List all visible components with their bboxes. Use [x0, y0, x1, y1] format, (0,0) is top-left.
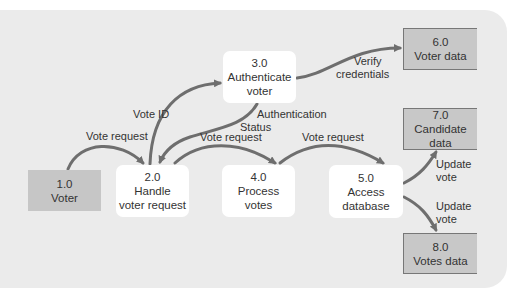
node-id: 2.0 — [145, 170, 161, 184]
node-id: 6.0 — [433, 35, 449, 49]
node-label: Process — [238, 184, 280, 198]
node-candidate-data[interactable]: 7.0 Candidate data — [403, 108, 477, 150]
flow-handle-to-auth — [150, 83, 220, 164]
node-id: 8.0 — [433, 240, 449, 254]
node-label: Voter data — [414, 49, 466, 63]
flow-label-update-1: Update — [436, 158, 471, 171]
flow-access-to-votesdata — [404, 197, 436, 230]
node-id: 1.0 — [57, 177, 73, 191]
node-process-votes[interactable]: 4.0 Process votes — [222, 165, 295, 217]
node-id: 4.0 — [251, 170, 267, 184]
flow-label-vote-1: vote — [436, 171, 457, 184]
node-label: Voter — [51, 191, 78, 205]
flow-label-vote-request-3: Vote request — [302, 131, 364, 144]
node-label: voter — [247, 84, 273, 98]
node-label: votes — [245, 198, 273, 212]
flow-access-to-candidatedata — [404, 152, 436, 183]
flow-label-vote-request-1: Vote request — [86, 130, 148, 143]
flow-label-authentication: Authentication — [257, 108, 327, 121]
flow-label-verify: Verify — [354, 55, 382, 68]
flow-process-to-access — [280, 146, 383, 163]
node-voter[interactable]: 1.0 Voter — [28, 170, 101, 211]
node-access-database[interactable]: 5.0 Access database — [329, 165, 403, 218]
node-label: Votes data — [413, 254, 467, 268]
node-id: 3.0 — [252, 56, 268, 70]
flow-label-vote-request-2: Vote request — [200, 131, 262, 144]
node-votes-data[interactable]: 8.0 Votes data — [403, 233, 477, 274]
flow-handle-to-process — [175, 146, 275, 163]
node-label: Access — [347, 185, 384, 199]
flow-label-vote-id: Vote ID — [133, 108, 169, 121]
node-id: 7.0 — [433, 108, 449, 122]
flow-label-vote-2: vote — [436, 213, 457, 226]
node-authenticate-voter[interactable]: 3.0 Authenticate voter — [223, 51, 296, 103]
flow-label-credentials: credentials — [336, 68, 389, 81]
node-id: 5.0 — [358, 171, 374, 185]
node-voter-data[interactable]: 6.0 Voter data — [403, 28, 477, 70]
node-label: Handle — [134, 184, 170, 198]
node-label: Authenticate — [228, 70, 292, 84]
flow-label-update-2: Update — [436, 200, 471, 213]
node-label: database — [342, 199, 389, 213]
node-handle-voter-request[interactable]: 2.0 Handle voter request — [116, 165, 189, 217]
node-label: Candidate data — [404, 122, 477, 150]
node-label: voter request — [119, 198, 186, 212]
